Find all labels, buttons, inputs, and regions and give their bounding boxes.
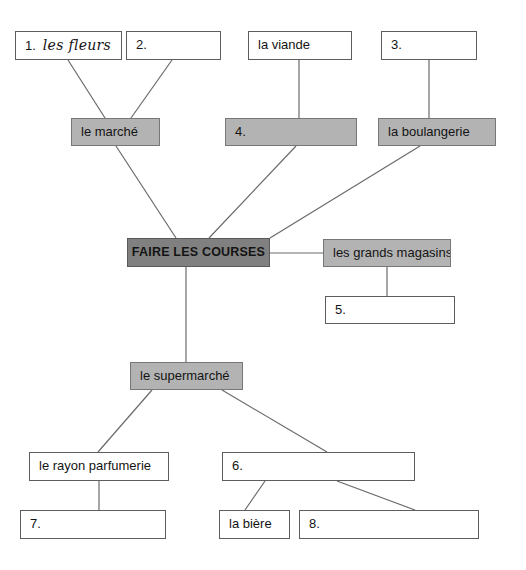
mind-map-diagram: 1.les fleurs2.la viande3.le marché4.la b…	[0, 0, 526, 570]
node-la-boulangerie[interactable]: la boulangerie	[378, 118, 496, 146]
node-blank-8-label: 8.	[309, 517, 320, 531]
node-les-grands-magasins[interactable]: les grands magasins	[323, 239, 451, 267]
node-fleurs[interactable]: 1.les fleurs	[15, 31, 122, 60]
edge-blank2-to-marche	[131, 60, 172, 118]
node-fleurs-number: 1.	[25, 39, 36, 53]
node-les-grands-magasins-label: les grands magasins	[333, 246, 451, 260]
node-le-marche-label: le marché	[81, 125, 138, 139]
node-la-biere-label: la bière	[229, 517, 272, 531]
node-le-supermarche-label: le supermarché	[140, 369, 230, 383]
edge-boulangerie-to-center	[270, 146, 420, 238]
edge-blank6-to-biere	[245, 481, 265, 510]
node-blank-2-label: 2.	[136, 38, 147, 52]
node-fleurs-handwritten-answer: les fleurs	[43, 38, 111, 53]
node-la-viande-label: la viande	[258, 38, 310, 52]
node-le-rayon-parfumerie[interactable]: le rayon parfumerie	[29, 452, 169, 481]
node-blank-2[interactable]: 2.	[126, 31, 221, 60]
node-faire-les-courses-label: FAIRE LES COURSES	[132, 246, 265, 260]
node-blank-4[interactable]: 4.	[225, 118, 357, 146]
edge-marche-to-center	[116, 146, 176, 238]
edge-supermarche-to-parfumerie	[98, 390, 152, 452]
edge-blank4-to-center	[209, 146, 296, 238]
node-blank-5-label: 5.	[335, 303, 346, 317]
edge-fleurs-to-marche	[68, 60, 105, 118]
node-le-rayon-parfumerie-label: le rayon parfumerie	[39, 459, 151, 473]
node-blank-7[interactable]: 7.	[20, 510, 166, 539]
node-la-viande[interactable]: la viande	[248, 31, 352, 60]
node-blank-8[interactable]: 8.	[299, 510, 479, 539]
node-le-marche[interactable]: le marché	[71, 118, 160, 146]
node-fleurs-content: 1.les fleurs	[25, 38, 111, 53]
node-blank-3-label: 3.	[391, 38, 402, 52]
connector-lines-layer	[0, 0, 526, 570]
node-la-biere[interactable]: la bière	[219, 510, 290, 539]
node-blank-6[interactable]: 6.	[222, 452, 415, 481]
node-la-boulangerie-label: la boulangerie	[388, 125, 470, 139]
node-blank-7-label: 7.	[30, 517, 41, 531]
edge-supermarche-to-blank6	[222, 390, 327, 452]
node-blank-3[interactable]: 3.	[381, 31, 477, 60]
node-faire-les-courses[interactable]: FAIRE LES COURSES	[127, 238, 270, 267]
node-blank-5[interactable]: 5.	[325, 296, 455, 324]
node-blank-6-label: 6.	[232, 459, 243, 473]
edge-blank6-to-blank8	[337, 481, 415, 510]
node-le-supermarche[interactable]: le supermarché	[130, 362, 243, 390]
node-blank-4-label: 4.	[235, 125, 246, 139]
